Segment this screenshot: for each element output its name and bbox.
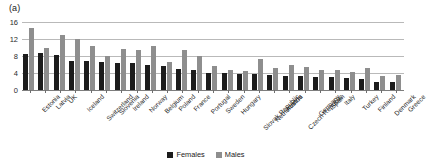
bar-males [75, 39, 80, 90]
bar-females [84, 61, 89, 90]
bar-group [328, 22, 343, 90]
bar-females [206, 73, 211, 90]
bar-males [304, 67, 309, 90]
bar-group [389, 22, 404, 90]
bar-males [151, 46, 156, 90]
bar-group [160, 22, 175, 90]
bar-females [390, 82, 395, 90]
bar-males [29, 28, 34, 90]
y-axis-tick-label: 0 [2, 86, 18, 95]
bar-females [298, 76, 303, 90]
bar-males [212, 66, 217, 90]
y-axis-tick-label: 12 [2, 35, 18, 44]
y-axis-tick-label: 4 [2, 69, 18, 78]
x-axis-tick [198, 90, 199, 93]
x-axis-tick [381, 90, 382, 93]
x-axis-tick [366, 90, 367, 93]
bar-females [99, 62, 104, 90]
bar-males [60, 35, 65, 90]
bar-males [289, 65, 294, 91]
x-axis-tick [106, 90, 107, 93]
legend-label: Males [225, 150, 245, 159]
bar-males [136, 50, 141, 90]
bar-males [396, 75, 401, 90]
bar-males [335, 70, 340, 90]
bar-group [282, 22, 297, 90]
bar-group [266, 22, 281, 90]
bar-females [23, 54, 28, 90]
bar-females [222, 73, 227, 90]
x-axis-tick [228, 90, 229, 93]
x-axis-tick [182, 90, 183, 93]
bar-group [53, 22, 68, 90]
legend-square-swatch [216, 152, 222, 158]
bar-males [105, 56, 110, 90]
bar-group [144, 22, 159, 90]
bar-females [54, 55, 59, 90]
x-axis-tick [30, 90, 31, 93]
bar-males [167, 62, 172, 90]
bar-females [161, 66, 166, 90]
x-axis-tick [45, 90, 46, 93]
bar-group [68, 22, 83, 90]
bar-males [243, 71, 248, 90]
y-axis-tick-label: 16 [2, 18, 18, 27]
x-axis-label: Iceland [86, 93, 106, 113]
bar-males [273, 68, 278, 90]
bar-females [359, 79, 364, 90]
legend-label: Females [176, 150, 204, 159]
plot-area [22, 22, 404, 90]
x-axis-tick [396, 90, 397, 93]
x-axis-label: Italy [343, 93, 357, 107]
bar-males [182, 50, 187, 90]
bar-females [237, 74, 242, 90]
bar-males [319, 70, 324, 90]
bar-group [37, 22, 52, 90]
bar-males [44, 48, 49, 91]
bar-males [380, 76, 385, 90]
legend-item: Females [167, 150, 204, 159]
bar-females [329, 77, 334, 90]
bar-females [191, 70, 196, 90]
x-axis-tick [320, 90, 321, 93]
x-axis-tick [137, 90, 138, 93]
x-axis-tick [274, 90, 275, 93]
x-axis-tick [152, 90, 153, 93]
x-axis-tick [91, 90, 92, 93]
bar-males [365, 68, 370, 90]
y-axis-tick-label: 8 [2, 52, 18, 61]
bar-males [197, 56, 202, 90]
bar-group [297, 22, 312, 90]
bar-females [130, 63, 135, 90]
bar-females [313, 77, 318, 90]
x-axis-tick [121, 90, 122, 93]
x-axis-tick [259, 90, 260, 93]
bar-females [283, 76, 288, 90]
legend-square-swatch [167, 152, 173, 158]
bar-females [374, 82, 379, 90]
x-axis-tick [305, 90, 306, 93]
bar-group [22, 22, 37, 90]
bar-group [175, 22, 190, 90]
bar-males [121, 49, 126, 90]
bar-females [38, 53, 43, 90]
x-axis-tick [289, 90, 290, 93]
bar-group [129, 22, 144, 90]
x-axis-tick [75, 90, 76, 93]
bar-males [350, 72, 355, 90]
bar-females [145, 65, 150, 90]
bar-females [69, 61, 74, 90]
bar-group [312, 22, 327, 90]
legend-item: Males [216, 150, 245, 159]
panel-label: (a) [9, 3, 20, 13]
x-axis-label: Austria [284, 93, 303, 112]
bar-females [252, 74, 257, 90]
bar-group [221, 22, 236, 90]
x-axis-tick [244, 90, 245, 93]
bar-group [358, 22, 373, 90]
bar-group [373, 22, 388, 90]
bar-group [98, 22, 113, 90]
bar-females [267, 75, 272, 90]
bar-group [343, 22, 358, 90]
